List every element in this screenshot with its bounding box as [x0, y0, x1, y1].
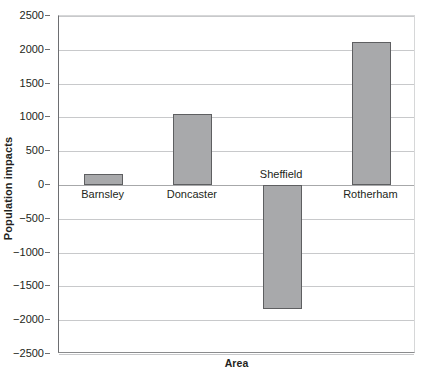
gridline	[59, 16, 414, 17]
category-label: Sheffield	[260, 168, 303, 180]
gridline	[59, 253, 414, 254]
gridline	[59, 354, 414, 355]
y-axis-tick-label: −2500	[13, 347, 44, 359]
y-axis-tick-label: −2000	[13, 313, 44, 325]
gridline	[59, 286, 414, 287]
y-axis-tick-label: 1000	[20, 110, 44, 122]
bar	[173, 114, 212, 185]
y-axis-tick-mark	[45, 49, 50, 50]
gridline	[59, 219, 414, 220]
bar	[263, 185, 302, 309]
bar	[352, 42, 391, 185]
gridline	[59, 320, 414, 321]
bar-chart: Population impacts 25002000150010005000−…	[0, 0, 427, 377]
y-axis-tick-mark	[45, 285, 50, 286]
y-axis-tick-label: 500	[26, 144, 44, 156]
y-axis-tick-mark	[45, 218, 50, 219]
y-axis-tick-mark	[45, 252, 50, 253]
category-label: Rotherham	[343, 188, 397, 200]
category-label: Barnsley	[81, 188, 124, 200]
y-axis-tick-mark	[45, 83, 50, 84]
category-label: Doncaster	[167, 188, 217, 200]
y-axis-tick-label: −500	[19, 212, 44, 224]
gridline	[59, 185, 414, 186]
bar	[84, 174, 123, 185]
y-axis-tick-label: 2500	[20, 9, 44, 21]
y-axis-tick-mark	[45, 116, 50, 117]
y-axis-tick-mark	[45, 319, 50, 320]
plot-area	[58, 15, 415, 353]
y-axis-tick-label: 0	[38, 178, 44, 190]
y-axis-tick-mark	[45, 353, 50, 354]
y-axis-tick-label: 1500	[20, 77, 44, 89]
y-axis-tick-mark	[45, 150, 50, 151]
y-axis-tick-label: −1000	[13, 246, 44, 258]
y-axis-tick-label: 2000	[20, 43, 44, 55]
y-axis-tick-label: −1500	[13, 279, 44, 291]
y-axis-tick-mark	[45, 15, 50, 16]
y-axis-tick-container: 25002000150010005000−500−1000−1500−2000−…	[0, 0, 58, 377]
y-axis-tick-mark	[45, 184, 50, 185]
x-axis-title: Area	[58, 357, 415, 369]
